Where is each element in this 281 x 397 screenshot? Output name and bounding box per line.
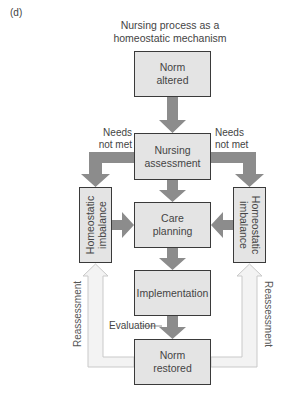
implementation-label: Implementation xyxy=(137,287,209,300)
nursing-assessment-line-1: Nursing xyxy=(144,144,200,157)
arrow-assessment-to-planning xyxy=(159,180,186,202)
norm-altered-line-2: altered xyxy=(156,74,188,87)
homeostatic-right-line-1: Homeostatic xyxy=(250,187,262,263)
arrow-implementation-to-restored xyxy=(159,316,186,339)
label-reassessment-right: Reassessment xyxy=(263,279,274,349)
node-nursing-assessment: Nursing assessment xyxy=(134,133,211,180)
label-evaluation: Evaluation xyxy=(109,320,156,332)
nursing-assessment-line-2: assessment xyxy=(144,157,200,170)
reassessment-arrow-left xyxy=(83,264,134,367)
homeostatic-right-text: Homeostatic imbalance xyxy=(238,187,262,263)
care-planning-line-1: Care xyxy=(153,212,193,225)
arrow-imbalance-right-to-planning xyxy=(211,212,233,238)
homeostatic-left-line-2: imbalance xyxy=(96,187,108,263)
needs-right-line-2: not met xyxy=(215,139,248,151)
arrow-imbalance-left-to-planning xyxy=(112,212,134,238)
node-homeostatic-imbalance-right: Homeostatic imbalance xyxy=(233,187,266,263)
node-homeostatic-imbalance-left: Homeostatic imbalance xyxy=(79,187,112,263)
homeostatic-left-line-1: Homeostatic xyxy=(84,187,96,263)
label-needs-not-met-right: Needs not met xyxy=(215,127,248,151)
node-implementation: Implementation xyxy=(134,270,211,316)
arrow-planning-to-implementation xyxy=(159,248,186,270)
label-reassessment-left: Reassessment xyxy=(72,279,83,349)
homeostatic-right-line-2: imbalance xyxy=(238,187,250,263)
node-care-planning: Care planning xyxy=(134,202,211,248)
care-planning-line-2: planning xyxy=(153,225,193,238)
needs-right-line-1: Needs xyxy=(215,127,248,139)
label-needs-not-met-left: Needs not met xyxy=(88,127,132,151)
node-norm-restored: Norm restored xyxy=(134,339,211,385)
norm-restored-line-2: restored xyxy=(153,362,192,375)
arrow-needs-right xyxy=(211,152,264,187)
reassessment-arrow-right xyxy=(211,264,262,367)
arrow-needs-left xyxy=(81,152,134,187)
homeostatic-left-text: Homeostatic imbalance xyxy=(84,187,108,263)
needs-left-line-2: not met xyxy=(88,139,132,151)
arrow-altered-to-assessment xyxy=(159,97,186,133)
node-norm-altered: Norm altered xyxy=(134,51,211,97)
needs-left-line-1: Needs xyxy=(88,127,132,139)
norm-restored-line-1: Norm xyxy=(153,349,192,362)
norm-altered-line-1: Norm xyxy=(156,61,188,74)
